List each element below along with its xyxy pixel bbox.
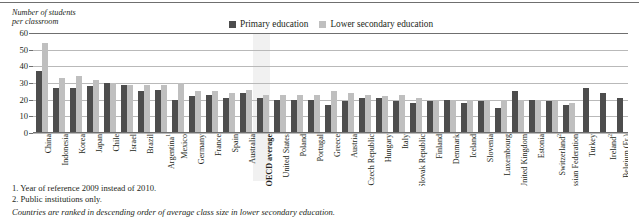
- y-axis-title: Number of students per classroom: [12, 8, 76, 26]
- bar-lower-secondary: [552, 101, 558, 133]
- bar-lower-secondary: [178, 83, 184, 133]
- x-axis-label: Greece: [334, 134, 342, 157]
- x-axis-label: Poland: [300, 134, 308, 156]
- x-axis-label: France: [215, 134, 223, 156]
- bar-lower-secondary: [280, 95, 286, 133]
- bar-group: [67, 76, 84, 133]
- y-tick-label-30: 30: [8, 79, 28, 88]
- bar-group: [339, 93, 356, 133]
- bar-lower-secondary: [76, 76, 82, 133]
- bar-group: [407, 98, 424, 133]
- x-axis-labels: ChinaIndonesiaKoreaJapanChileIsraelBrazi…: [33, 134, 628, 186]
- bar-group: [458, 100, 475, 133]
- bar-group: [543, 101, 560, 133]
- bar-group: [492, 100, 509, 133]
- chart-legend: Primary education Lower secondary educat…: [229, 19, 433, 29]
- bar-group: [594, 93, 611, 133]
- footnote-1: 1. Year of reference 2009 instead of 201…: [12, 183, 335, 194]
- bar-primary: [600, 93, 606, 133]
- x-axis-label: Estonia: [538, 134, 546, 158]
- x-axis-label: Turkey: [589, 134, 597, 157]
- legend-swatch-lower-secondary: [319, 21, 326, 28]
- bar-group: [577, 88, 594, 133]
- x-axis-label: Portugal: [317, 134, 325, 161]
- bar-group: [611, 98, 628, 133]
- bar-group: [441, 100, 458, 133]
- x-axis-label: Spain: [232, 134, 240, 152]
- x-axis-label: Ireland2: [606, 134, 618, 160]
- bar-lower-secondary: [467, 100, 473, 133]
- bar-lower-secondary: [416, 98, 422, 133]
- x-axis-label: Czech Republic: [368, 134, 376, 185]
- legend-item-lower-secondary: Lower secondary education: [319, 19, 433, 29]
- bar-lower-secondary: [263, 95, 269, 133]
- bar-lower-secondary: [246, 90, 252, 133]
- y-tick-label-50: 50: [8, 46, 28, 55]
- bar-group: [288, 95, 305, 133]
- x-axis-label: United States: [283, 134, 291, 177]
- chart-plot-area: [33, 33, 628, 133]
- bar-lower-secondary: [331, 91, 337, 133]
- x-axis-label: Switzerland2: [555, 134, 567, 175]
- x-axis-label: Italy: [402, 134, 410, 149]
- gridline-50: [33, 50, 628, 51]
- y-tick-label-60: 60: [8, 29, 28, 38]
- bar-lower-secondary: [314, 95, 320, 133]
- x-axis-label: Iceland: [470, 134, 478, 158]
- footnote-2: 2. Public institutions only.: [12, 194, 335, 205]
- bar-group: [118, 85, 135, 133]
- bar-lower-secondary: [42, 43, 48, 133]
- bar-lower-secondary: [535, 100, 541, 133]
- bar-primary: [583, 88, 589, 133]
- x-axis-label: Indonesia: [62, 134, 70, 165]
- x-axis-label: Japan: [96, 134, 104, 152]
- bar-lower-secondary: [93, 80, 99, 133]
- bar-lower-secondary: [450, 100, 456, 133]
- bar-group: [169, 83, 186, 133]
- bar-group: [509, 91, 526, 133]
- legend-label-primary: Primary education: [240, 19, 308, 29]
- x-axis-label: Slovak Republic: [419, 134, 427, 186]
- y-tick-label-20: 20: [8, 96, 28, 105]
- bar-group: [203, 91, 220, 133]
- x-axis-label: Brazil: [147, 134, 155, 154]
- x-axis-label: Israel: [130, 134, 138, 152]
- bar-group: [135, 85, 152, 133]
- ranking-note: Countries are ranked in descending order…: [12, 207, 335, 218]
- bar-group: [237, 90, 254, 133]
- x-axis-line: [33, 132, 628, 133]
- bar-lower-secondary: [382, 96, 388, 133]
- bar-lower-secondary: [348, 93, 354, 133]
- x-axis-label: Hungary: [385, 134, 393, 162]
- bar-group: [84, 80, 101, 133]
- bar-lower-secondary: [229, 93, 235, 133]
- legend-swatch-primary: [229, 21, 236, 28]
- bar-primary: [617, 98, 623, 133]
- bar-group: [254, 95, 271, 133]
- bar-lower-secondary: [297, 95, 303, 133]
- bar-group: [220, 93, 237, 133]
- bar-group: [526, 100, 543, 133]
- y-tick-label-0: 0: [8, 129, 28, 138]
- bar-group: [322, 91, 339, 133]
- footnotes: 1. Year of reference 2009 instead of 201…: [12, 183, 335, 218]
- gridline-60: [33, 33, 628, 34]
- x-axis-label: Australia: [249, 134, 257, 164]
- bar-lower-secondary: [195, 91, 201, 133]
- gridline-40: [33, 66, 628, 67]
- bar-group: [373, 96, 390, 133]
- bar-group: [152, 85, 169, 133]
- bar-group: [475, 100, 492, 133]
- x-axis-label: Belgium (Fr.): [623, 134, 628, 178]
- x-axis-label: Korea: [79, 134, 87, 154]
- x-axis-label: United Kingdom: [521, 134, 529, 186]
- x-axis-label: Chile: [113, 134, 121, 152]
- bar-group: [33, 43, 50, 133]
- bar-group: [390, 95, 407, 133]
- y-tick-label-40: 40: [8, 62, 28, 71]
- bar-lower-secondary: [59, 78, 65, 133]
- x-axis-label: Finland: [436, 134, 444, 159]
- bar-group: [305, 95, 322, 133]
- top-rule: [0, 2, 639, 3]
- bar-lower-secondary: [399, 95, 405, 133]
